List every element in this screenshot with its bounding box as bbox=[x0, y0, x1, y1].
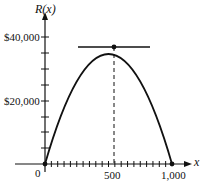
x-axis-label: x bbox=[194, 157, 199, 168]
x-axis-arrow-icon bbox=[184, 161, 192, 167]
y-tick-label-40000: $40,000 bbox=[4, 32, 40, 43]
revenue-chart bbox=[0, 0, 203, 186]
x-tick-label-1000: 1,000 bbox=[161, 170, 186, 181]
revenue-curve bbox=[45, 54, 172, 164]
end-point bbox=[170, 162, 175, 167]
y-axis-label: R(x) bbox=[35, 4, 56, 15]
origin-point bbox=[43, 162, 48, 167]
max-point bbox=[112, 45, 117, 50]
y-tick-label-20000: $20,000 bbox=[4, 96, 40, 107]
x-tick-label-500: 500 bbox=[104, 170, 121, 181]
x-tick-label-0: 0 bbox=[35, 168, 41, 179]
